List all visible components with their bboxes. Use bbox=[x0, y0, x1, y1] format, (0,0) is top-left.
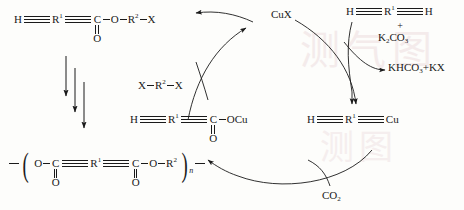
subscript-3: 3 bbox=[419, 67, 423, 75]
arrow-diyne-feed bbox=[348, 22, 352, 92]
superscript-1: 1 bbox=[175, 112, 179, 120]
label-catalyst-cux: CuX bbox=[271, 8, 292, 20]
atom-o-label: O bbox=[52, 177, 60, 188]
group-r1-label: R1 bbox=[384, 6, 395, 17]
arrow-byproduct-release bbox=[344, 42, 385, 70]
group-cu-label: Cu bbox=[386, 114, 399, 125]
group-r2-label: R2 bbox=[155, 80, 166, 91]
group-r1-label: R1 bbox=[345, 114, 356, 125]
label-k2co3: K2CO3 bbox=[378, 32, 408, 43]
arrow-cycle-left-up bbox=[188, 28, 246, 120]
single-bond-icon bbox=[167, 85, 174, 86]
arrow-cux-to-ester bbox=[196, 12, 253, 22]
atom-o-label: O bbox=[132, 177, 140, 188]
species-diyne: H R1 H bbox=[346, 6, 433, 17]
species-dihalide: X R2 X bbox=[138, 80, 183, 91]
atom-o-label: O bbox=[209, 133, 217, 144]
atom-x-label: X bbox=[138, 80, 146, 91]
group-r1-label: R1 bbox=[168, 114, 179, 125]
species-potassium-carbonate: K2CO3 bbox=[378, 32, 408, 43]
atom-c-label: C bbox=[52, 157, 59, 169]
species-polymer: ( O C O R1 C O O R2 ) n bbox=[8, 158, 206, 169]
single-bond-icon bbox=[147, 85, 154, 86]
superscript-1: 1 bbox=[59, 12, 63, 20]
atom-h-label: H bbox=[307, 114, 315, 125]
triple-bond-icon bbox=[317, 116, 343, 123]
atom-x-label: X bbox=[175, 80, 183, 91]
single-bond-icon bbox=[158, 163, 165, 164]
label-co2: CO2 bbox=[322, 190, 341, 201]
species-byproduct: KHCO3+KX bbox=[388, 62, 445, 73]
single-bond-icon bbox=[9, 163, 19, 164]
single-bond-icon bbox=[141, 163, 148, 164]
single-bond-icon bbox=[140, 19, 147, 20]
atom-h-label: H bbox=[14, 14, 22, 25]
group-ocu-label: OCu bbox=[227, 114, 248, 125]
subscript-n: n bbox=[189, 167, 193, 175]
label-plus-sign: + bbox=[380, 20, 420, 31]
atom-x-label: X bbox=[148, 14, 156, 25]
triple-bond-icon bbox=[62, 160, 88, 167]
atom-h-label: H bbox=[130, 114, 138, 125]
carbonyl-group: C O bbox=[93, 14, 102, 25]
triple-bond-icon bbox=[103, 160, 129, 167]
arrow-co2-entry bbox=[308, 160, 330, 186]
superscript-2: 2 bbox=[173, 156, 177, 164]
subscript-2: 2 bbox=[337, 195, 341, 203]
triple-bond-icon bbox=[397, 8, 423, 15]
triple-bond-icon bbox=[356, 8, 382, 15]
carbonyl-group: C O bbox=[209, 114, 218, 125]
carbonyl-group: C O bbox=[131, 158, 140, 169]
atom-o-label: O bbox=[93, 33, 101, 44]
superscript-1: 1 bbox=[391, 4, 395, 12]
single-bond-icon bbox=[219, 119, 226, 120]
arrow-dihalide-entry bbox=[196, 62, 208, 100]
superscript-1: 1 bbox=[352, 112, 356, 120]
single-bond-icon bbox=[43, 163, 50, 164]
superscript-2: 2 bbox=[135, 12, 139, 20]
group-r1-label: R1 bbox=[90, 158, 101, 169]
group-r1-label: R1 bbox=[52, 14, 63, 25]
arrow-cux-to-acetylide bbox=[295, 20, 356, 104]
atom-o-label: O bbox=[34, 158, 42, 169]
single-bond-icon bbox=[120, 19, 127, 20]
subscript-2: 2 bbox=[386, 37, 390, 45]
label-khco3-kx: KHCO3+KX bbox=[388, 62, 445, 73]
carbonyl-group: C O bbox=[51, 158, 60, 169]
reaction-scheme-canvas: 测气图 测图 H R1 C O O R2 X X R2 X CuX H R1 H bbox=[0, 0, 464, 210]
species-carbon-dioxide: CO2 bbox=[322, 190, 341, 201]
background-watermark-secondary: 测图 bbox=[320, 120, 398, 169]
superscript-1: 1 bbox=[98, 156, 102, 164]
group-r2-label: R2 bbox=[128, 14, 139, 25]
triple-bond-icon bbox=[358, 116, 384, 123]
triple-bond-icon bbox=[65, 16, 91, 23]
subscript-3: 3 bbox=[405, 37, 409, 45]
atom-h-label: H bbox=[346, 6, 354, 17]
single-bond-icon bbox=[103, 19, 110, 20]
species-monomer-ester: H R1 C O O R2 X bbox=[14, 14, 156, 25]
atom-c-label: C bbox=[94, 13, 101, 25]
atom-o-ester-label: O bbox=[111, 14, 119, 25]
atom-c-label: C bbox=[132, 157, 139, 169]
species-copper-acetylide: H R1 Cu bbox=[307, 114, 399, 125]
triple-bond-icon bbox=[140, 116, 166, 123]
arrow-co2-insertion bbox=[208, 150, 372, 184]
superscript-2: 2 bbox=[162, 78, 166, 86]
atom-c-label: C bbox=[210, 113, 217, 125]
triple-bond-icon bbox=[24, 16, 50, 23]
single-bond-icon bbox=[195, 163, 205, 164]
species-copper-carboxylate: H R1 C O OCu bbox=[130, 114, 248, 125]
atom-o-ester-label: O bbox=[149, 158, 157, 169]
triple-bond-icon bbox=[181, 116, 207, 123]
atom-h-label: H bbox=[425, 6, 433, 17]
group-r2-label: R2 bbox=[166, 158, 177, 169]
